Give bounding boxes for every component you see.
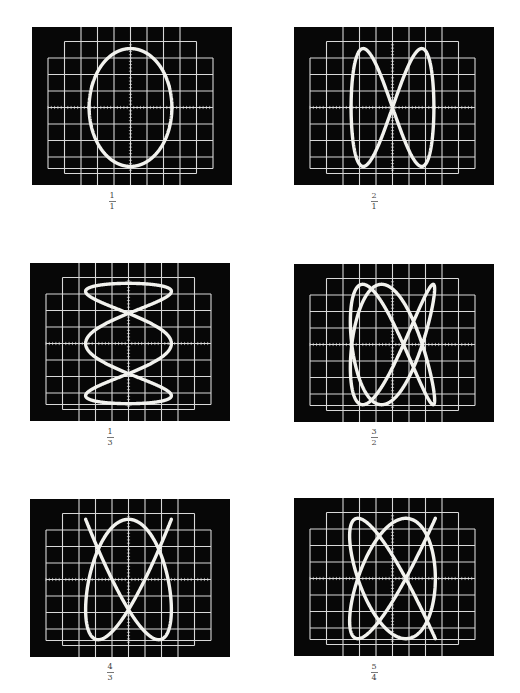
graticule (32, 27, 232, 185)
graticule (294, 498, 494, 656)
oscilloscope-panel-4-3 (30, 499, 230, 657)
oscilloscope-panel-1-1 (32, 27, 232, 185)
graticule (294, 27, 494, 185)
ratio-denominator: 4 (354, 673, 394, 682)
oscilloscope-panel-2-1 (294, 27, 494, 185)
ratio-label: 11 (92, 192, 132, 211)
ratio-label: 21 (354, 192, 394, 211)
oscilloscope-panel-5-4 (294, 498, 494, 656)
ratio-label: 32 (354, 428, 394, 447)
ratio-label: 54 (354, 663, 394, 682)
oscilloscope-panel-1-3 (30, 263, 230, 421)
ratio-numerator: 1 (107, 428, 114, 438)
ratio-numerator: 2 (371, 192, 378, 202)
graticule (30, 499, 230, 657)
ratio-denominator: 3 (90, 673, 130, 682)
ratio-denominator: 1 (354, 202, 394, 211)
ratio-label: 13 (90, 428, 130, 447)
ratio-denominator: 1 (92, 202, 132, 211)
ratio-numerator: 5 (371, 663, 378, 673)
graticule (294, 264, 494, 422)
graticule (30, 263, 230, 421)
ratio-label: 43 (90, 663, 130, 682)
oscilloscope-panel-3-2 (294, 264, 494, 422)
ratio-numerator: 1 (109, 192, 116, 202)
ratio-numerator: 4 (107, 663, 114, 673)
ratio-numerator: 3 (371, 428, 378, 438)
ratio-denominator: 3 (90, 438, 130, 447)
ratio-denominator: 2 (354, 438, 394, 447)
